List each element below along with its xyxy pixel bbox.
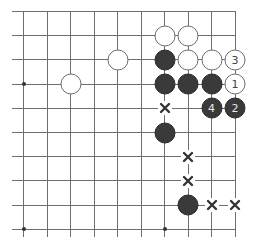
white-stone <box>201 49 222 70</box>
black-stone: 2 <box>225 98 246 119</box>
white-stone <box>107 49 128 70</box>
grid-line-vertical <box>94 11 95 237</box>
x-icon <box>181 150 195 164</box>
grid-line-vertical <box>23 11 24 237</box>
grid-line-horizontal <box>12 132 236 133</box>
star-point <box>163 227 167 231</box>
move-number: 4 <box>208 102 215 115</box>
grid-line-vertical <box>70 11 71 237</box>
black-stone <box>154 74 175 95</box>
grid-line-horizontal <box>12 205 236 206</box>
white-stone <box>154 25 175 46</box>
go-board: 3142 <box>0 0 255 251</box>
grid-line-horizontal <box>12 11 236 12</box>
grid-line-horizontal <box>12 156 236 157</box>
grid-line-vertical <box>117 11 118 237</box>
grid-line-horizontal <box>12 229 236 230</box>
grid-line-horizontal <box>12 180 236 181</box>
white-stone: 1 <box>225 74 246 95</box>
move-number: 3 <box>232 53 239 66</box>
move-number: 1 <box>232 78 239 91</box>
star-point <box>22 227 26 231</box>
grid-line-vertical <box>47 11 48 237</box>
white-stone <box>60 74 81 95</box>
black-stone <box>154 49 175 70</box>
x-icon <box>228 198 242 212</box>
grid-line-horizontal <box>12 35 236 36</box>
star-point <box>22 82 26 86</box>
x-icon <box>181 174 195 188</box>
x-icon <box>205 198 219 212</box>
move-number: 2 <box>232 102 239 115</box>
white-stone <box>178 49 199 70</box>
black-stone <box>201 74 222 95</box>
black-stone <box>178 74 199 95</box>
white-stone <box>178 25 199 46</box>
grid-line-vertical <box>141 11 142 237</box>
white-stone: 3 <box>225 49 246 70</box>
black-stone: 4 <box>201 98 222 119</box>
black-stone <box>154 122 175 143</box>
black-stone <box>178 195 199 216</box>
x-icon <box>158 101 172 115</box>
